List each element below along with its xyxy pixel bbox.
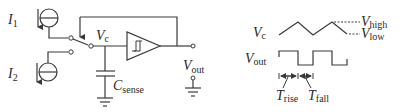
figure-svg: I1 I2 Vc <box>0 0 407 112</box>
period-markers <box>279 73 313 88</box>
trise-pointer <box>283 77 288 88</box>
schmitt-trigger-comparator <box>127 32 191 60</box>
ground-icon <box>97 98 113 106</box>
comparator-triangle-icon <box>127 32 160 60</box>
switch-terminal-icon <box>89 44 93 48</box>
current-source-i1 <box>38 9 68 38</box>
timing-vc-label: Vc <box>253 25 267 41</box>
output-ground <box>185 76 201 96</box>
trise-label: Trise <box>276 88 299 104</box>
vc-node-label: Vc <box>96 28 110 44</box>
i1-label: I1 <box>7 12 18 29</box>
tfall-label: Tfall <box>308 88 329 104</box>
current-source-i2 <box>37 52 68 82</box>
ground-icon <box>185 88 201 96</box>
capacitor-c-sense <box>96 46 115 106</box>
tfall-pointer <box>305 77 311 88</box>
timing-vout-label: Vout <box>245 51 267 67</box>
switch-terminal-icon <box>69 36 73 40</box>
spdt-switch <box>69 17 93 54</box>
output-terminal-icon <box>191 76 195 80</box>
vout-square-waveform <box>279 51 347 65</box>
circuit-figure: I1 I2 Vc <box>0 0 407 112</box>
c-sense-label: Csense <box>113 78 145 95</box>
vout-output-label: Vout <box>183 58 205 75</box>
output-terminal-icon <box>191 44 195 48</box>
switch-terminal-icon <box>69 50 73 54</box>
i2-label: I2 <box>7 66 18 83</box>
feedback-wire <box>80 17 177 46</box>
vc-triangle-waveform <box>279 22 347 35</box>
switch-blade-icon <box>73 39 88 45</box>
